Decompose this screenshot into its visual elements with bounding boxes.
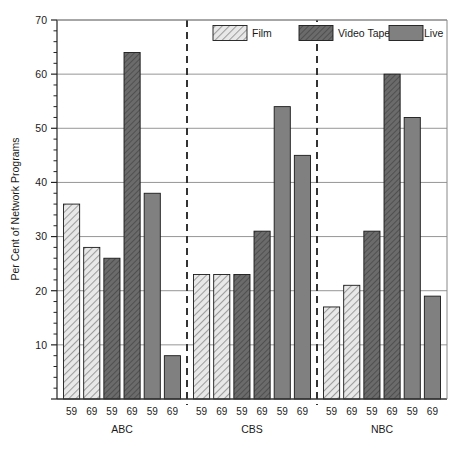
bar	[324, 307, 340, 399]
bar	[84, 247, 100, 399]
bar	[404, 117, 420, 399]
y-tick-label: 20	[35, 285, 47, 297]
y-tick-label: 50	[35, 122, 47, 134]
x-year-label: 59	[196, 406, 208, 417]
y-tick-label: 30	[35, 230, 47, 242]
x-year-label: 59	[66, 406, 78, 417]
bar	[164, 356, 180, 399]
x-year-label: 69	[297, 406, 309, 417]
bar	[214, 274, 230, 399]
chart-container: 10203040506070 Per Cent of Network Progr…	[0, 0, 469, 457]
x-group-label-abc: ABC	[111, 423, 133, 435]
x-group-label-cbs: CBS	[241, 423, 263, 435]
x-year-label: 69	[427, 406, 439, 417]
x-year-label: 59	[236, 406, 248, 417]
legend-swatch-film	[213, 26, 247, 41]
bar-chart: 10203040506070 Per Cent of Network Progr…	[0, 0, 469, 457]
y-axis-title: Per Cent of Network Programs	[9, 138, 21, 281]
bar	[294, 155, 310, 399]
bar	[424, 296, 440, 399]
x-year-label: 59	[326, 406, 338, 417]
legend-swatch-live	[389, 26, 423, 41]
x-year-label: 59	[277, 406, 289, 417]
y-tick-label: 70	[35, 14, 47, 26]
y-tick-label: 40	[35, 176, 47, 188]
y-tick-label: 10	[35, 339, 47, 351]
bar	[64, 204, 80, 399]
bar	[344, 285, 360, 399]
y-tick-label: 60	[35, 68, 47, 80]
legend-label-live: Live	[424, 27, 443, 39]
bar	[124, 52, 140, 399]
bar	[274, 107, 290, 399]
bar	[254, 231, 270, 399]
bar	[364, 231, 380, 399]
legend-label-video-tape: Video Tape	[338, 27, 390, 39]
x-year-label: 59	[147, 406, 159, 417]
legend-swatch-video-tape	[299, 26, 333, 41]
bar	[194, 274, 210, 399]
x-year-label: 69	[167, 406, 179, 417]
bar	[234, 274, 250, 399]
x-year-label: 69	[257, 406, 269, 417]
x-year-label: 59	[106, 406, 118, 417]
x-year-label: 59	[407, 406, 419, 417]
legend-label-film: Film	[252, 27, 272, 39]
legend: FilmVideo TapeLive	[205, 22, 445, 44]
x-year-label: 69	[127, 406, 139, 417]
x-year-label: 59	[366, 406, 378, 417]
x-year-label: 69	[387, 406, 399, 417]
bar	[144, 193, 160, 399]
x-year-label: 69	[346, 406, 358, 417]
bar	[384, 74, 400, 399]
x-year-label: 69	[216, 406, 228, 417]
x-year-label: 69	[86, 406, 98, 417]
bar	[104, 258, 120, 399]
x-group-label-nbc: NBC	[371, 423, 394, 435]
